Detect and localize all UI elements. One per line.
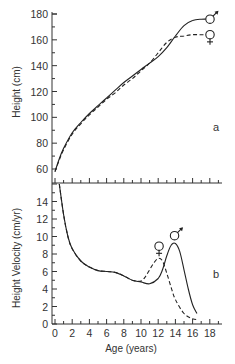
- panel-b-ytick-label: 2: [42, 301, 48, 313]
- panel-b-label: b: [213, 268, 219, 280]
- panel-b-male-symbol: [170, 227, 183, 240]
- panel-a-ytick-label: 80: [36, 137, 48, 149]
- panel-a-height: 6080100120140160180: [30, 8, 218, 183]
- panel-b-ytick-label: 8: [42, 248, 48, 260]
- panel-a-label: a: [213, 121, 220, 133]
- panel-b-velocity: 02468101214024681012141618: [36, 178, 222, 339]
- panel-b-xtick-label: 0: [52, 327, 58, 339]
- panel-b-ytick-label: 4: [42, 283, 48, 295]
- x-axis-title: Age (years): [105, 343, 157, 354]
- panel-b-xtick-label: 6: [104, 327, 110, 339]
- panel-a-ytick-label: 140: [30, 60, 48, 72]
- panel-b-xtick-label: 14: [170, 327, 182, 339]
- panel-b-ylabel: Height Velocity (cm/yr): [11, 208, 22, 308]
- panel-b-xtick-label: 4: [86, 327, 92, 339]
- panel-a-ytick-label: 60: [36, 163, 48, 175]
- panel-b-line-male: [59, 184, 197, 314]
- growth-chart: 6080100120140160180 02468101214024681012…: [0, 0, 235, 364]
- panel-b-xtick-label: 10: [135, 327, 147, 339]
- panel-b-ytick-label: 0: [42, 318, 48, 330]
- panel-a-ytick-label: 180: [30, 8, 48, 20]
- panel-b-line-female: [59, 184, 197, 320]
- panel-b-ytick-label: 6: [42, 266, 48, 278]
- panel-b-ytick-label: 12: [36, 213, 48, 225]
- panel-b-xtick-label: 12: [152, 327, 164, 339]
- panel-a-ytick-label: 100: [30, 111, 48, 123]
- panel-b-xtick-label: 16: [187, 327, 199, 339]
- panel-a-line-male: [55, 19, 210, 171]
- panel-b-female-symbol: [155, 242, 163, 256]
- panel-a-male-symbol: [206, 11, 219, 24]
- panel-a-ytick-label: 160: [30, 34, 48, 46]
- panel-b-xtick-label: 18: [204, 327, 216, 339]
- panel-a-ylabel: Height (cm): [11, 66, 22, 118]
- panel-a-female-symbol: [206, 30, 214, 44]
- panel-b-ytick-label: 14: [36, 196, 48, 208]
- panel-a-ytick-label: 120: [30, 86, 48, 98]
- panel-a-line-female: [55, 35, 210, 172]
- panel-b-xtick-label: 2: [69, 327, 75, 339]
- panel-b-xtick-label: 8: [121, 327, 127, 339]
- panel-b-ytick-label: 10: [36, 231, 48, 243]
